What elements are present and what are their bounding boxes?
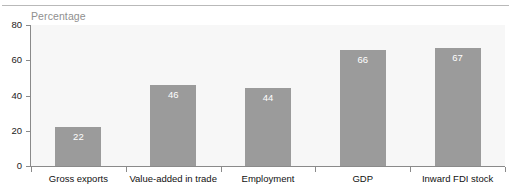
y-axis-title: Percentage xyxy=(31,10,86,22)
bar-5: 67 xyxy=(435,48,481,166)
category-label-3: Employment xyxy=(221,173,316,184)
category-label-5: Inward FDI stock xyxy=(410,173,505,184)
y-tick-20 xyxy=(26,131,31,132)
y-tick-label-60: 60 xyxy=(0,54,22,65)
y-tick-60 xyxy=(26,60,31,61)
x-tick-4 xyxy=(410,167,411,172)
cut-off-title-remnant xyxy=(150,0,370,3)
y-tick-40 xyxy=(26,96,31,97)
bar-2: 46 xyxy=(150,85,196,166)
bar-value-label-2: 46 xyxy=(150,89,196,100)
y-tick-80 xyxy=(26,25,31,26)
y-tick-label-0: 0 xyxy=(0,160,22,171)
bar-3: 44 xyxy=(245,88,291,166)
x-tick-2 xyxy=(221,167,222,172)
y-tick-label-20: 20 xyxy=(0,125,22,136)
category-label-4: GDP xyxy=(315,173,410,184)
category-label-2: Value-added in trade xyxy=(126,173,221,184)
category-label-1: Gross exports xyxy=(31,173,126,184)
bar-value-label-4: 66 xyxy=(340,54,386,65)
y-tick-label-40: 40 xyxy=(0,90,22,101)
bar-value-label-3: 44 xyxy=(245,92,291,103)
top-divider-rule xyxy=(2,5,509,6)
x-tick-0 xyxy=(31,167,32,172)
bar-value-label-5: 67 xyxy=(435,52,481,63)
bar-value-label-1: 22 xyxy=(55,131,101,142)
chart-figure: Percentage 020406080 2246446667 Gross ex… xyxy=(0,0,511,192)
bar-4: 66 xyxy=(340,50,386,166)
x-tick-1 xyxy=(126,167,127,172)
bar-1: 22 xyxy=(55,127,101,166)
x-axis-line xyxy=(30,166,505,167)
y-tick-label-80: 80 xyxy=(0,19,22,30)
x-tick-3 xyxy=(315,167,316,172)
x-tick-5 xyxy=(505,167,506,172)
